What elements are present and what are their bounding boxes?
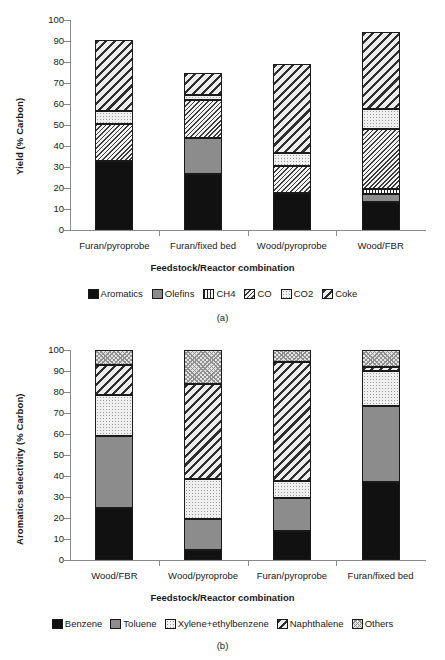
y-tick-label: 80 bbox=[38, 57, 64, 67]
bar-segment-toluene bbox=[184, 519, 222, 549]
bar-segment-ch4 bbox=[362, 189, 400, 194]
bar-segment-co2 bbox=[95, 111, 133, 124]
stacked-bar bbox=[184, 20, 222, 230]
y-tick-label-wrap: 90 bbox=[34, 371, 64, 372]
legend-label: Olefins bbox=[165, 288, 195, 299]
y-tick-label: 0 bbox=[38, 225, 64, 235]
y-tick-label: 60 bbox=[38, 429, 64, 439]
y-tick-label-wrap: 0 bbox=[34, 230, 64, 231]
legend-swatch-icon bbox=[152, 289, 163, 299]
bar-segment-benzene bbox=[95, 508, 133, 561]
y-tick-label-wrap: 40 bbox=[34, 146, 64, 147]
y-tick-label-wrap: 50 bbox=[34, 455, 64, 456]
y-tick-label-wrap: 30 bbox=[34, 167, 64, 168]
legend-swatch-icon bbox=[277, 619, 288, 629]
legend-label: CO2 bbox=[294, 288, 314, 299]
legend-swatch-icon bbox=[322, 289, 333, 299]
y-tick-label-wrap: 40 bbox=[34, 476, 64, 477]
x-tick bbox=[159, 561, 160, 566]
bar-segment-co bbox=[184, 100, 222, 138]
legend-item: CH4 bbox=[203, 288, 235, 299]
x-category-label: Wood/FBR bbox=[336, 240, 425, 251]
bar-segment-toluene bbox=[273, 498, 311, 531]
bar-segment-coke bbox=[95, 40, 133, 111]
x-category-label: Wood/pyroprobe bbox=[248, 240, 337, 251]
legend-label: Aromatics bbox=[101, 288, 143, 299]
panel-caption-a: (a) bbox=[0, 312, 445, 323]
stacked-bar bbox=[184, 350, 222, 560]
bar-segment-benzene bbox=[362, 482, 400, 560]
y-tick-label-wrap: 30 bbox=[34, 497, 64, 498]
bar-segment-xylene-ethylbenzene bbox=[362, 371, 400, 406]
y-tick-label-wrap: 90 bbox=[34, 41, 64, 42]
y-tick-label: 80 bbox=[38, 387, 64, 397]
bar-segment-aromatics bbox=[362, 202, 400, 230]
panel-caption-b: (b) bbox=[0, 640, 445, 651]
legend-b: BenzeneTolueneXylene+ethylbenzeneNaphtha… bbox=[0, 618, 445, 629]
bar-segment-coke bbox=[362, 32, 400, 110]
x-category-label: Wood/pyroprobe bbox=[159, 570, 248, 581]
y-tick-label: 40 bbox=[38, 471, 64, 481]
chart-panel-a: Yield (% Carbon) 0102030405060708090100 … bbox=[0, 0, 445, 330]
legend-label: Naphthalene bbox=[290, 618, 344, 629]
x-tick bbox=[248, 231, 249, 236]
legend-item: Xylene+ethylbenzene bbox=[165, 618, 269, 629]
legend-label: Benzene bbox=[65, 618, 103, 629]
y-tick-label-wrap: 70 bbox=[34, 83, 64, 84]
y-tick-label: 20 bbox=[38, 183, 64, 193]
y-tick-label: 30 bbox=[38, 492, 64, 502]
legend-label: CO bbox=[257, 288, 271, 299]
y-axis-label-a: Yield (% Carbon) bbox=[14, 98, 25, 175]
y-tick-label: 90 bbox=[38, 36, 64, 46]
y-tick-label: 50 bbox=[38, 450, 64, 460]
y-tick-label: 90 bbox=[38, 366, 64, 376]
bar-segment-benzene bbox=[273, 531, 311, 560]
y-tick-label-wrap: 20 bbox=[34, 188, 64, 189]
y-tick-label: 0 bbox=[38, 555, 64, 565]
y-tick-label-wrap: 10 bbox=[34, 209, 64, 210]
legend-swatch-icon bbox=[203, 289, 214, 299]
y-tick-label: 70 bbox=[38, 408, 64, 418]
legend-item: Others bbox=[352, 618, 394, 629]
legend-item: Benzene bbox=[52, 618, 103, 629]
y-tick-label: 50 bbox=[38, 120, 64, 130]
y-axis-label-b: Aromatics selectivity (% Carbon) bbox=[14, 393, 25, 545]
y-tick bbox=[64, 560, 70, 561]
y-tick-label: 100 bbox=[38, 15, 64, 25]
legend-swatch-icon bbox=[352, 619, 363, 629]
y-tick-label-wrap: 100 bbox=[34, 20, 64, 21]
legend-item: Aromatics bbox=[88, 288, 143, 299]
bar-segment-aromatics bbox=[184, 174, 222, 230]
y-tick-label: 40 bbox=[38, 141, 64, 151]
bar-segment-coke bbox=[184, 73, 222, 95]
bar-segment-co2 bbox=[362, 109, 400, 129]
legend-a: AromaticsOlefinsCH4COCO2Coke bbox=[0, 288, 445, 299]
y-tick-label-wrap: 20 bbox=[34, 518, 64, 519]
y-tick-label: 60 bbox=[38, 99, 64, 109]
y-tick-label: 70 bbox=[38, 78, 64, 88]
legend-label: Others bbox=[365, 618, 394, 629]
x-axis-label-b: Feedstock/Reactor combination bbox=[0, 592, 445, 603]
bar-segment-xylene-ethylbenzene bbox=[95, 395, 133, 436]
bar-segment-toluene bbox=[362, 406, 400, 483]
legend-swatch-icon bbox=[244, 289, 255, 299]
bar-segment-others bbox=[95, 350, 133, 365]
bar-segment-co bbox=[273, 166, 311, 193]
x-category-label: Furan/pyroprobe bbox=[248, 570, 337, 581]
y-tick-label-wrap: 60 bbox=[34, 104, 64, 105]
bar-segment-naphthalene bbox=[95, 365, 133, 395]
y-tick-label: 100 bbox=[38, 345, 64, 355]
bar-segment-xylene-ethylbenzene bbox=[273, 481, 311, 498]
x-axis-label-a: Feedstock/Reactor combination bbox=[0, 262, 445, 273]
legend-item: CO2 bbox=[281, 288, 314, 299]
bar-segment-benzene bbox=[184, 550, 222, 561]
bar-segment-co bbox=[95, 124, 133, 161]
bar-segment-naphthalene bbox=[273, 362, 311, 482]
chart-panel-b: Aromatics selectivity (% Carbon) 0102030… bbox=[0, 330, 445, 660]
legend-item: Naphthalene bbox=[277, 618, 344, 629]
y-tick-label-wrap: 80 bbox=[34, 62, 64, 63]
stacked-bar bbox=[273, 20, 311, 230]
legend-label: Coke bbox=[335, 288, 357, 299]
legend-item: Olefins bbox=[152, 288, 195, 299]
legend-swatch-icon bbox=[52, 619, 63, 629]
